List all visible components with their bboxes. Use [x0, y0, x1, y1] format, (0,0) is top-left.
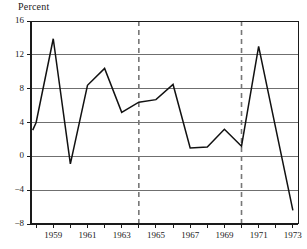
line-plot: [0, 0, 307, 249]
chart-figure: Percent 1612840−4−8 19591961196319651967…: [0, 0, 307, 249]
data-series-line: [33, 39, 293, 211]
